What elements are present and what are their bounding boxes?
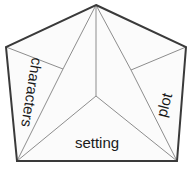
pentagon-diagram-canvas: characters plot setting: [0, 0, 194, 169]
story-elements-diagram: characters plot setting: [0, 0, 194, 169]
panel-label-setting: setting: [75, 134, 119, 151]
